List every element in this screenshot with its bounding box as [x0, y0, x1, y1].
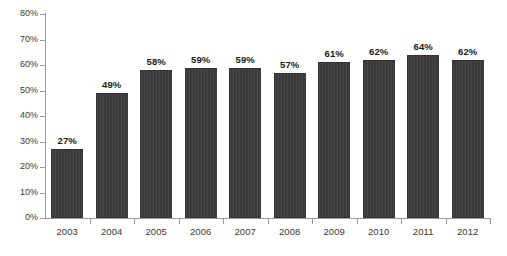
- bar: [318, 62, 350, 218]
- bar: [51, 149, 83, 218]
- bar-value-label: 62%: [357, 46, 401, 57]
- bar: [96, 93, 128, 218]
- x-axis-tick: [490, 219, 491, 224]
- x-axis-tick: [179, 219, 180, 224]
- x-axis-category-label: 2009: [311, 226, 357, 237]
- x-axis-tick: [312, 219, 313, 224]
- bar-chart: 0%10%20%30%40%50%60%70%80% 27%49%58%59%5…: [0, 0, 507, 256]
- y-axis-tick-label: 30%: [0, 136, 38, 146]
- y-axis-tick-label: 20%: [0, 161, 38, 171]
- bar: [452, 60, 484, 218]
- x-axis-tick: [134, 219, 135, 224]
- y-axis-tick-label: 70%: [0, 34, 38, 44]
- x-axis-category-label: 2012: [445, 226, 491, 237]
- x-axis-tick: [90, 219, 91, 224]
- y-axis-tick-label: 50%: [0, 85, 38, 95]
- bar-value-label: 62%: [446, 46, 490, 57]
- x-axis-category-label: 2007: [222, 226, 268, 237]
- x-axis-category-label: 2003: [44, 226, 90, 237]
- bar-value-label: 64%: [401, 41, 445, 52]
- x-axis-category-label: 2004: [89, 226, 135, 237]
- x-axis-category-label: 2011: [400, 226, 446, 237]
- x-axis-category-label: 2010: [356, 226, 402, 237]
- y-axis-tick-label: 0%: [0, 212, 38, 222]
- bar: [185, 68, 217, 218]
- y-axis-tick-label: 60%: [0, 59, 38, 69]
- bar-value-label: 59%: [179, 54, 223, 65]
- x-axis-tick: [401, 219, 402, 224]
- x-axis-tick: [223, 219, 224, 224]
- y-axis-tick-label: 10%: [0, 187, 38, 197]
- bar: [140, 70, 172, 218]
- y-axis-tick-label: 80%: [0, 8, 38, 18]
- x-axis-tick: [446, 219, 447, 224]
- bar-value-label: 27%: [45, 135, 89, 146]
- y-axis-tick-label: 40%: [0, 110, 38, 120]
- bar: [274, 73, 306, 218]
- x-axis-category-label: 2008: [267, 226, 313, 237]
- bar-value-label: 58%: [134, 56, 178, 67]
- x-axis-category-label: 2006: [178, 226, 224, 237]
- bar-value-label: 57%: [268, 59, 312, 70]
- x-axis-tick: [357, 219, 358, 224]
- bar-value-label: 59%: [223, 54, 267, 65]
- y-axis-tick: [40, 218, 45, 219]
- bar-value-label: 61%: [312, 48, 356, 59]
- x-axis-tick: [268, 219, 269, 224]
- x-axis-category-label: 2005: [133, 226, 179, 237]
- bar-value-label: 49%: [90, 79, 134, 90]
- bar: [363, 60, 395, 218]
- bar: [229, 68, 261, 218]
- bar: [407, 55, 439, 218]
